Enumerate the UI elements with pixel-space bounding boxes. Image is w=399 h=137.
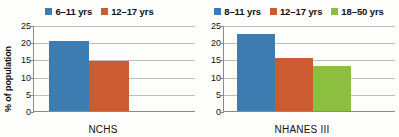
- bar-6-11-yrs: [49, 41, 89, 111]
- bar-12-17-yrs: [275, 58, 313, 111]
- y-tick-label: 25: [211, 22, 221, 31]
- bar-18-50-yrs: [313, 66, 351, 111]
- bar-group: [225, 26, 395, 111]
- legend-swatch-icon: [270, 8, 277, 15]
- legend-nchs: 6–11 yrs 12–17 yrs: [0, 0, 199, 20]
- y-tick-mark: [221, 95, 224, 96]
- y-tick-mark: [31, 26, 34, 27]
- plot-column: NCHS: [33, 20, 199, 137]
- legend-label: 8–11 yrs: [224, 7, 261, 17]
- x-axis-category-label: NCHS: [33, 124, 195, 135]
- legend-nhanes-iii: 8–11 yrs 12–17 yrs 18–50 yrs: [199, 0, 399, 20]
- y-tick-mark: [221, 78, 224, 79]
- legend-label: 12–17 yrs: [111, 7, 153, 17]
- y-tick-mark: [221, 43, 224, 44]
- bar-group: [35, 26, 195, 111]
- chart-area-nchs: % of population 25 20 15 10 5 0: [0, 20, 199, 137]
- y-tick-mark: [31, 112, 34, 113]
- legend-item: 12–17 yrs: [101, 7, 153, 17]
- bar-12-17-yrs: [89, 61, 129, 111]
- y-axis-tick-labels: 25 20 15 10 5 0: [203, 20, 223, 137]
- y-tick-mark: [31, 78, 34, 79]
- y-tick-mark: [221, 112, 224, 113]
- y-tick-mark: [31, 95, 34, 96]
- y-tick-label: 20: [211, 39, 221, 48]
- y-axis-title-container: % of population: [0, 20, 15, 137]
- legend-item: 8–11 yrs: [214, 7, 261, 17]
- legend-swatch-icon: [101, 8, 108, 15]
- y-tick-label: 10: [21, 73, 31, 82]
- y-tick-mark: [221, 60, 224, 61]
- y-tick-label: 10: [211, 73, 221, 82]
- y-tick-label: 15: [21, 56, 31, 65]
- chart-area-nhanes-iii: 25 20 15 10 5 0: [199, 20, 399, 137]
- legend-swatch-icon: [331, 8, 338, 15]
- y-tick-label: 20: [21, 39, 31, 48]
- figure-two-bar-charts: 6–11 yrs 12–17 yrs % of population 25 20…: [0, 0, 399, 137]
- y-tick-label: 15: [211, 56, 221, 65]
- x-axis-category-label: NHANES III: [223, 124, 395, 135]
- plot-area: [223, 26, 395, 112]
- chart-panel-nchs: 6–11 yrs 12–17 yrs % of population 25 20…: [0, 0, 199, 137]
- legend-swatch-icon: [214, 8, 221, 15]
- plot-area: [33, 26, 195, 112]
- y-tick-mark: [31, 43, 34, 44]
- y-axis-title: % of population: [3, 46, 13, 112]
- legend-item: 12–17 yrs: [270, 7, 322, 17]
- y-tick-label: 25: [21, 22, 31, 31]
- legend-label: 6–11 yrs: [55, 7, 92, 17]
- legend-item: 6–11 yrs: [45, 7, 92, 17]
- plot-column: NHANES III: [223, 20, 399, 137]
- y-tick-mark: [221, 26, 224, 27]
- legend-item: 18–50 yrs: [331, 7, 383, 17]
- bar-8-11-yrs: [237, 34, 275, 111]
- legend-label: 18–50 yrs: [341, 7, 383, 17]
- y-tick-mark: [31, 60, 34, 61]
- chart-panel-nhanes-iii: 8–11 yrs 12–17 yrs 18–50 yrs 25 20 15 10…: [199, 0, 399, 137]
- legend-label: 12–17 yrs: [280, 7, 322, 17]
- legend-swatch-icon: [45, 8, 52, 15]
